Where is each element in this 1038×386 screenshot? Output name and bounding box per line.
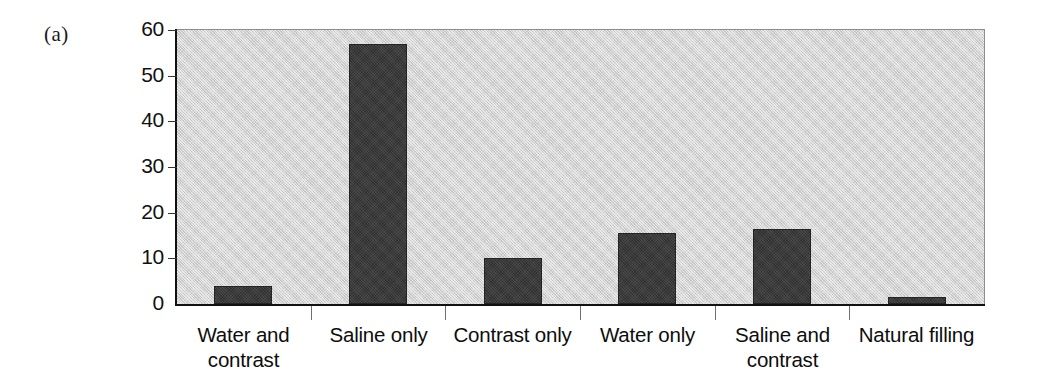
bar — [753, 229, 811, 304]
y-axis-tick — [168, 213, 177, 214]
y-axis-tick-labels: 0102030405060 — [84, 0, 164, 386]
x-axis-category-label: Saline and contrast — [715, 322, 850, 372]
y-axis-tick-label: 50 — [122, 63, 164, 87]
y-axis-tick — [168, 76, 177, 77]
x-axis-category-label: Saline only — [311, 322, 446, 347]
y-axis-tick-label: 10 — [122, 245, 164, 269]
bar — [888, 297, 946, 304]
y-axis-tick-label: 20 — [122, 200, 164, 224]
y-axis-tick — [168, 30, 177, 31]
x-axis-tick — [311, 306, 312, 320]
x-axis-tick — [580, 306, 581, 320]
x-axis-category-label: Water and contrast — [176, 322, 311, 372]
x-axis-category-label: Natural filling — [849, 322, 984, 347]
x-axis-category-label: Contrast only — [445, 322, 580, 347]
x-axis-tick — [849, 306, 850, 320]
figure-panel-a: (a) 0102030405060 Water and contrastSali… — [0, 0, 1038, 386]
x-axis-category-label: Water only — [580, 322, 715, 347]
plot-border-top — [176, 29, 985, 30]
y-axis-tick-label: 40 — [122, 108, 164, 132]
y-axis-tick — [168, 167, 177, 168]
plot-border-right — [984, 29, 985, 306]
x-axis-tick — [715, 306, 716, 320]
panel-label: (a) — [44, 22, 69, 47]
x-axis-tick — [445, 306, 446, 320]
plot-area — [176, 30, 984, 305]
bar — [618, 233, 676, 304]
bar — [214, 286, 272, 304]
y-axis-tick-label: 0 — [122, 291, 164, 315]
y-axis-tick-label: 30 — [122, 154, 164, 178]
bar — [349, 44, 407, 304]
y-axis-tick — [168, 258, 177, 259]
y-axis-tick-label: 60 — [122, 17, 164, 41]
y-axis-tick — [168, 121, 177, 122]
bar — [484, 258, 542, 304]
